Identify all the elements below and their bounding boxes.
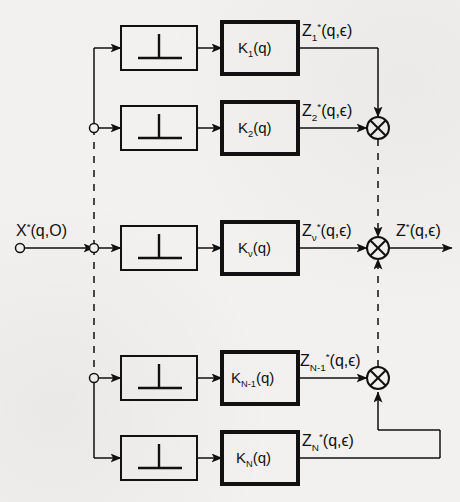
sum-junction-bottom[interactable]: [367, 367, 389, 389]
bus-node-2: [90, 124, 99, 133]
bus-node-nu: [90, 244, 99, 253]
signal-label-2: Z2*(q,ϵ): [302, 102, 352, 122]
input-terminal[interactable]: [16, 244, 25, 253]
transfer-block-label-nu: Kν(q): [238, 240, 271, 259]
signal-label-1: Z1*(q,ϵ): [302, 22, 352, 42]
bus-node-n1: [90, 374, 99, 383]
input-wire-group: [16, 244, 95, 253]
transfer-block-label-1: K1(q): [238, 40, 272, 59]
sum-junction-middle[interactable]: [367, 237, 389, 259]
transfer-block-label-2: K2(q): [238, 120, 272, 139]
block-diagram-canvas: [0, 0, 460, 502]
summing-bus: [378, 139, 452, 367]
sum-junction-top[interactable]: [367, 117, 389, 139]
signal-label-n: ZN*(q,ϵ): [302, 432, 354, 452]
transfer-block-label-n: KN(q): [236, 450, 271, 469]
input-distribution-bus: [90, 48, 122, 458]
transfer-block-label-n1: KN-1(q): [231, 370, 274, 389]
input-label: X*(q,O): [16, 222, 67, 239]
signal-label-n1: ZN-1*(q,ϵ): [300, 352, 361, 372]
output-label: Z*(q,ϵ): [396, 222, 441, 239]
signal-label-nu: Zν*(q,ϵ): [302, 222, 352, 242]
